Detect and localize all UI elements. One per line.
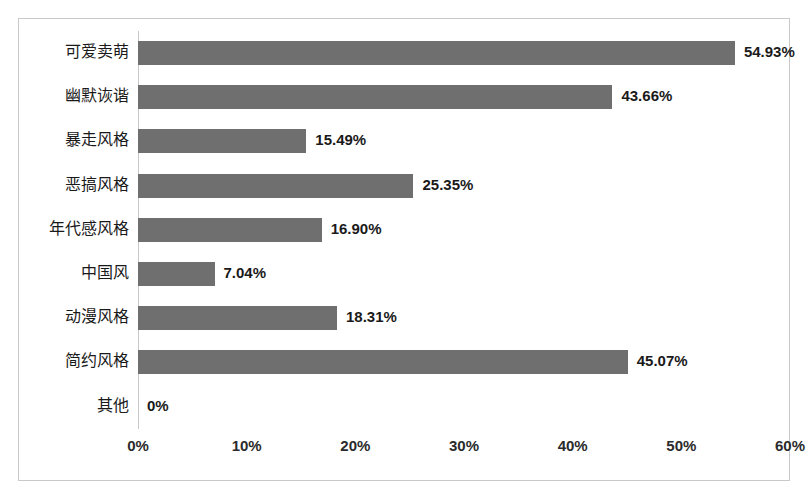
bar	[138, 306, 337, 330]
bar	[138, 174, 413, 198]
bar-value-label: 15.49%	[315, 128, 366, 152]
category-label: 年代感风格	[49, 217, 129, 241]
x-axis-tick-label: 60%	[775, 437, 805, 454]
x-axis-tick-label: 50%	[666, 437, 696, 454]
chart-frame: 可爱卖萌54.93%幽默诙谐43.66%暴走风格15.49%恶搞风格25.35%…	[18, 18, 790, 481]
bar-value-label: 16.90%	[331, 217, 382, 241]
x-axis-tick-label: 30%	[449, 437, 479, 454]
bar-row: 中国风7.04%	[138, 252, 790, 296]
x-axis-tick-label: 20%	[340, 437, 370, 454]
plot-area: 可爱卖萌54.93%幽默诙谐43.66%暴走风格15.49%恶搞风格25.35%…	[138, 31, 790, 429]
category-label: 动漫风格	[65, 305, 129, 329]
category-label: 暴走风格	[65, 128, 129, 152]
x-axis-tick-label: 10%	[232, 437, 262, 454]
bar	[138, 85, 612, 109]
category-label: 恶搞风格	[65, 173, 129, 197]
category-label: 中国风	[81, 261, 129, 285]
bar	[138, 262, 215, 286]
category-label: 简约风格	[65, 349, 129, 373]
category-label: 可爱卖萌	[65, 40, 129, 64]
bar-value-label: 0%	[147, 394, 169, 418]
x-axis-tick-label: 40%	[558, 437, 588, 454]
bar	[138, 350, 628, 374]
bar-value-label: 18.31%	[346, 305, 397, 329]
bar-row: 暴走风格15.49%	[138, 119, 790, 163]
category-label: 其他	[97, 394, 129, 418]
bar-row: 年代感风格16.90%	[138, 208, 790, 252]
bar	[138, 129, 306, 153]
bar-row: 动漫风格18.31%	[138, 296, 790, 340]
category-label: 幽默诙谐	[65, 84, 129, 108]
bar-value-label: 7.04%	[224, 261, 267, 285]
bar-value-label: 43.66%	[621, 84, 672, 108]
bar	[138, 218, 322, 242]
bar	[138, 41, 735, 65]
x-axis: 0%10%20%30%40%50%60%	[138, 437, 790, 467]
bar-row: 可爱卖萌54.93%	[138, 31, 790, 75]
chart-screenshot: 可爱卖萌54.93%幽默诙谐43.66%暴走风格15.49%恶搞风格25.35%…	[0, 0, 807, 499]
bar-row: 幽默诙谐43.66%	[138, 75, 790, 119]
bar-row: 简约风格45.07%	[138, 340, 790, 384]
x-axis-tick-label: 0%	[127, 437, 149, 454]
bar-value-label: 25.35%	[422, 173, 473, 197]
bar-value-label: 54.93%	[744, 40, 795, 64]
bar-row: 其他0%	[138, 385, 790, 429]
bar-row: 恶搞风格25.35%	[138, 164, 790, 208]
bar-value-label: 45.07%	[637, 349, 688, 373]
